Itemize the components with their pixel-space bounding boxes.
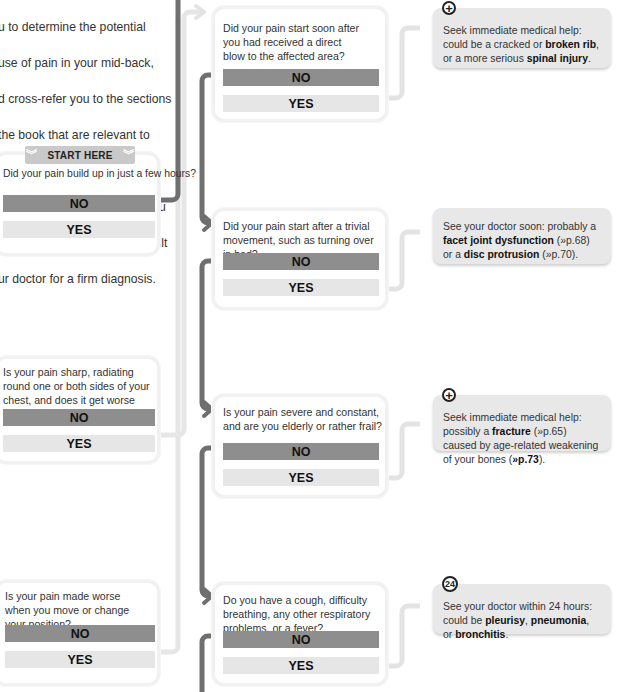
no-button[interactable]: NO: [223, 253, 379, 270]
start-here-label: START HERE: [47, 150, 112, 161]
yes-button[interactable]: YES: [223, 279, 379, 296]
question-card-middle-3: Is your pain severe and constant, and ar…: [212, 394, 388, 498]
no-button[interactable]: NO: [223, 631, 379, 648]
no-button[interactable]: NO: [3, 409, 155, 426]
intro-line: ur doctor for a firm diagnosis.: [0, 270, 205, 288]
emergency-plus-icon: +: [442, 388, 456, 402]
yes-button[interactable]: YES: [223, 95, 379, 112]
question-text: Did your pain build up in just a few hou…: [3, 167, 159, 181]
yes-button[interactable]: YES: [223, 469, 379, 486]
intro-line: use of pain in your mid-back,: [0, 54, 205, 72]
question-text: Is your pain severe and constant, and ar…: [223, 405, 383, 433]
no-button[interactable]: NO: [223, 443, 379, 460]
start-here-banner: ︾ START HERE ︾: [25, 146, 135, 164]
24-hours-icon: 24: [442, 576, 458, 592]
yes-button[interactable]: YES: [5, 651, 155, 668]
question-card-left-1: Did your pain build up in just a few hou…: [0, 152, 160, 256]
question-card-middle-1: Did your pain start soon after you had r…: [212, 6, 388, 122]
no-button[interactable]: NO: [3, 195, 155, 212]
result-box-4: See your doctor within 24 hours: could b…: [433, 584, 611, 634]
intro-line: the book that are relevant to: [0, 126, 205, 144]
question-card-left-2: Is your pain sharp, radiating round one …: [0, 356, 160, 464]
intro-line: d cross-refer you to the sections: [0, 90, 205, 108]
no-button[interactable]: NO: [5, 625, 155, 642]
emergency-plus-icon: +: [442, 1, 456, 15]
result-box-1: Seek immediate medical help: could be a …: [433, 8, 611, 68]
no-button[interactable]: NO: [223, 69, 379, 86]
question-text: Do you have a cough, difficulty breathin…: [223, 593, 389, 635]
result-box-2: See your doctor soon: probably a facet j…: [433, 208, 611, 264]
question-card-middle-2: Did your pain start after a trivial move…: [212, 208, 388, 310]
question-card-left-3: Is your pain made worse when you move or…: [0, 580, 160, 686]
yes-button[interactable]: YES: [3, 435, 155, 452]
yes-button[interactable]: YES: [3, 221, 155, 238]
yes-button[interactable]: YES: [223, 657, 379, 674]
intro-line: u to determine the potential: [0, 18, 205, 36]
result-box-3: Seek immediate medical help: possibly a …: [433, 395, 611, 451]
question-card-middle-4: Do you have a cough, difficulty breathin…: [212, 582, 388, 686]
double-chevron-down-icon: ︾: [26, 150, 37, 161]
question-text: Did your pain start soon after you had r…: [223, 21, 363, 63]
double-chevron-down-icon: ︾: [123, 150, 134, 161]
